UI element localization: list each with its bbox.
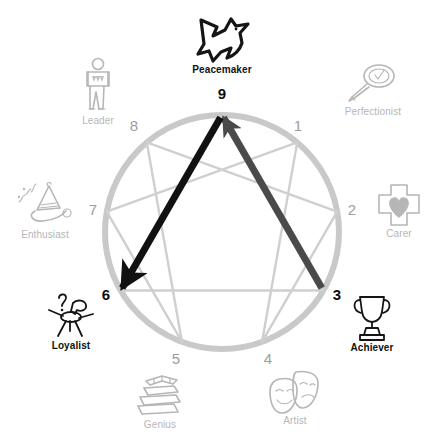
arrow-3-to-9 <box>224 118 322 288</box>
enneagram-type-7[interactable]: Enthusiast <box>0 181 91 240</box>
cross-heart-icon <box>376 182 422 228</box>
magnifier-check-icon <box>345 62 401 106</box>
enneagram-type-8[interactable]: Leader <box>52 57 144 126</box>
enneagram-number-1[interactable]: 1 <box>283 118 313 133</box>
question-person-icon <box>44 290 98 340</box>
enneagram-type-5[interactable]: Genius <box>114 371 206 430</box>
book-stack-icon <box>132 371 188 419</box>
enneagram-number-9[interactable]: 9 <box>207 86 237 101</box>
enneagram-label-9: Peacemaker <box>192 65 251 75</box>
dove-icon <box>191 14 253 64</box>
enneagram-type-1[interactable]: Perfectionist <box>327 62 419 117</box>
book-stack-icon <box>132 371 188 419</box>
magnifier-check-icon <box>345 62 401 106</box>
enneagram-label-8: Leader <box>82 116 114 126</box>
party-horn-icon <box>15 181 75 229</box>
question-person-icon <box>44 290 98 340</box>
enneagram-label-4: Artist <box>283 416 306 426</box>
enneagram-type-3[interactable]: Achiever <box>326 292 418 353</box>
standing-person-icon <box>78 57 118 115</box>
enneagram-type-2[interactable]: Carer <box>353 182 440 239</box>
trophy-icon <box>348 292 396 342</box>
theatre-masks-icon <box>266 369 324 415</box>
party-horn-icon <box>15 181 75 229</box>
standing-person-icon <box>78 57 118 115</box>
enneagram-label-1: Perfectionist <box>345 107 401 117</box>
trophy-icon <box>348 292 396 342</box>
cross-heart-icon <box>376 182 422 228</box>
enneagram-label-2: Carer <box>386 229 412 239</box>
theatre-masks-icon <box>266 369 324 415</box>
enneagram-type-6[interactable]: Loyalist <box>25 290 117 351</box>
enneagram-type-9[interactable]: Peacemaker <box>176 14 268 75</box>
enneagram-label-5: Genius <box>144 420 176 430</box>
enneagram-number-5[interactable]: 5 <box>161 351 191 366</box>
enneagram-label-6: Loyalist <box>52 341 91 351</box>
enneagram-label-3: Achiever <box>350 343 393 353</box>
dove-icon <box>191 14 253 64</box>
enneagram-number-4[interactable]: 4 <box>253 351 283 366</box>
enneagram-type-4[interactable]: Artist <box>249 369 341 426</box>
arrow-9-to-6 <box>122 118 220 288</box>
enneagram-label-7: Enthusiast <box>21 230 69 240</box>
enneagram-diagram: 912345678 PeacemakerPerfectionistCarerAc… <box>0 0 440 443</box>
